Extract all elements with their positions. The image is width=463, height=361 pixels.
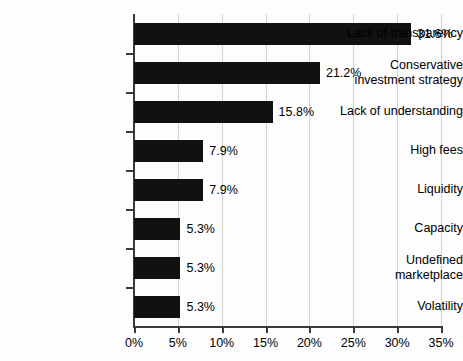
x-tick-label: 25%	[333, 336, 373, 350]
category-label: Capacity	[337, 221, 463, 236]
category-label: Undefined marketplace	[337, 253, 463, 283]
x-tick-label: 30%	[377, 336, 417, 350]
x-tick-label: 10%	[202, 336, 242, 350]
y-tick	[126, 209, 134, 211]
x-tick-20%	[309, 326, 311, 333]
bar-value-label: 7.9%	[209, 179, 238, 201]
x-tick-label: 20%	[289, 336, 329, 350]
x-tick-label: 15%	[246, 336, 286, 350]
bar-value-label: 5.3%	[186, 218, 215, 240]
bar	[134, 62, 320, 84]
x-tick-label: 5%	[158, 336, 198, 350]
y-tick	[126, 53, 134, 55]
bar-value-label: 15.8%	[279, 101, 314, 123]
category-label: Lack of transparency	[337, 26, 463, 41]
bar	[134, 179, 203, 201]
x-tick-0%	[134, 326, 136, 333]
bar-value-label: 7.9%	[209, 140, 238, 162]
x-tick-30%	[397, 326, 399, 333]
x-tick-5%	[178, 326, 180, 333]
y-tick	[126, 170, 134, 172]
x-tick-35%	[441, 326, 443, 333]
bar-value-label: 5.3%	[186, 296, 215, 318]
y-tick	[126, 131, 134, 133]
bar	[134, 218, 180, 240]
y-tick	[126, 92, 134, 94]
bar	[134, 140, 203, 162]
bar	[134, 257, 180, 279]
category-label: High fees	[337, 143, 463, 158]
y-tick	[126, 248, 134, 250]
bar-value-label: 5.3%	[186, 257, 215, 279]
bar-chart: 31.6%21.2%15.8%7.9%7.9%5.3%5.3%5.3% Lack…	[0, 0, 463, 361]
category-label: Conservative investment strategy	[337, 58, 463, 88]
x-tick-label: 35%	[421, 336, 461, 350]
y-tick	[126, 287, 134, 289]
x-tick-25%	[353, 326, 355, 333]
bar	[134, 296, 180, 318]
category-label: Lack of understanding	[337, 104, 463, 119]
x-tick-10%	[222, 326, 224, 333]
x-tick-label: 0%	[114, 336, 154, 350]
bar	[134, 101, 273, 123]
category-label: Volatility	[337, 299, 463, 314]
x-tick-15%	[266, 326, 268, 333]
category-label: Liquidity	[337, 182, 463, 197]
